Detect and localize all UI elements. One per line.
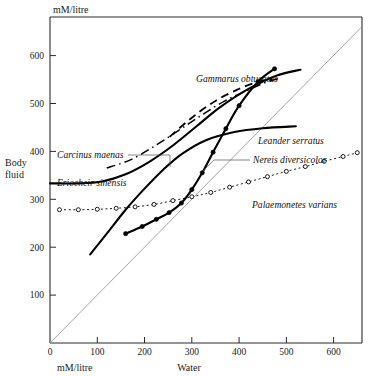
species-label-carcinus-maenas: Carcinus maenas bbox=[57, 149, 124, 160]
data-point-palaemonetes-varians bbox=[95, 207, 99, 211]
osmoregulation-figure: mM/litre 600 500 400 300 200 100 bbox=[0, 0, 378, 376]
data-point-palaemonetes-varians bbox=[265, 175, 269, 179]
data-point-palaemonetes-varians bbox=[247, 180, 251, 184]
data-point-nereis-diversicolor bbox=[190, 187, 194, 191]
annotation-layer: Gammarus obtusatusCarcinus maenasErioche… bbox=[56, 73, 337, 210]
data-point-nereis-diversicolor bbox=[179, 201, 183, 205]
data-point-palaemonetes-varians bbox=[114, 206, 118, 210]
species-label-gammarus-obtusatus: Gammarus obtusatus bbox=[196, 73, 278, 84]
data-point-palaemonetes-varians bbox=[303, 165, 307, 169]
data-point-nereis-diversicolor bbox=[211, 150, 215, 154]
data-point-nereis-diversicolor bbox=[237, 104, 241, 108]
x-tick-label-0: 0 bbox=[48, 347, 53, 357]
data-point-nereis-diversicolor bbox=[200, 171, 204, 175]
y-tick-label-100: 100 bbox=[30, 290, 45, 300]
y-axis-ticks: 600 500 400 300 200 100 bbox=[30, 51, 56, 301]
data-point-nereis-diversicolor bbox=[224, 127, 228, 131]
data-point-palaemonetes-varians bbox=[355, 151, 359, 155]
data-point-nereis-diversicolor bbox=[167, 211, 171, 215]
leader-line-nereis-diversicolor bbox=[203, 160, 250, 171]
x-axis-title: Water bbox=[177, 362, 201, 373]
x-unit-label: mM/litre bbox=[57, 362, 93, 373]
x-tick-label-200: 200 bbox=[137, 347, 152, 357]
data-point-palaemonetes-varians bbox=[284, 169, 288, 173]
species-label-eriocheir-sinensis: Eriocheir sinensis bbox=[56, 177, 127, 188]
data-point-nereis-diversicolor bbox=[140, 224, 144, 228]
y-tick-label-200: 200 bbox=[30, 243, 45, 253]
y-tick-label-600: 600 bbox=[30, 51, 45, 61]
species-label-palaemonetes-varians: Palaemonetes varians bbox=[251, 199, 337, 210]
y-axis-title-line2: fluid bbox=[5, 169, 24, 180]
x-tick-label-100: 100 bbox=[90, 347, 105, 357]
species-label-leander-serratus: Leander serratus bbox=[257, 135, 324, 146]
x-tick-label-300: 300 bbox=[185, 347, 200, 357]
y-axis-title-line1: Body bbox=[5, 157, 27, 168]
x-tick-label-500: 500 bbox=[279, 347, 294, 357]
data-point-palaemonetes-varians bbox=[341, 155, 345, 159]
chart-svg: mM/litre 600 500 400 300 200 100 bbox=[0, 0, 378, 376]
data-point-palaemonetes-varians bbox=[209, 190, 213, 194]
data-point-palaemonetes-varians bbox=[133, 205, 137, 209]
data-point-nereis-diversicolor bbox=[272, 67, 276, 71]
y-unit-label: mM/litre bbox=[53, 4, 89, 15]
data-point-palaemonetes-varians bbox=[171, 199, 175, 203]
y-tick-label-400: 400 bbox=[30, 147, 45, 157]
y-tick-label-500: 500 bbox=[30, 99, 45, 109]
species-label-nereis-diversicolor: Nereis diversicolor bbox=[252, 154, 327, 165]
x-tick-label-600: 600 bbox=[326, 347, 341, 357]
data-point-palaemonetes-varians bbox=[76, 208, 80, 212]
data-point-palaemonetes-varians bbox=[228, 185, 232, 189]
data-point-palaemonetes-varians bbox=[152, 202, 156, 206]
y-tick-label-300: 300 bbox=[30, 195, 45, 205]
data-point-nereis-diversicolor bbox=[124, 232, 128, 236]
data-point-nereis-diversicolor bbox=[154, 217, 158, 221]
data-point-palaemonetes-varians bbox=[190, 195, 194, 199]
x-axis-ticks: 0 100 200 300 400 500 600 bbox=[48, 337, 341, 357]
data-point-palaemonetes-varians bbox=[57, 208, 61, 212]
x-tick-label-400: 400 bbox=[232, 347, 247, 357]
